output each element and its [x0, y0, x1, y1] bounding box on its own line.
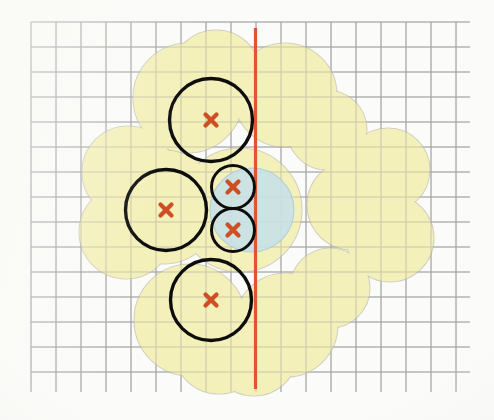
yellow-disc — [291, 249, 369, 327]
circle-packing-figure: Circle packing with dilated union region… — [0, 0, 494, 420]
figure-canvas: Circle packing with dilated union region… — [0, 0, 494, 420]
